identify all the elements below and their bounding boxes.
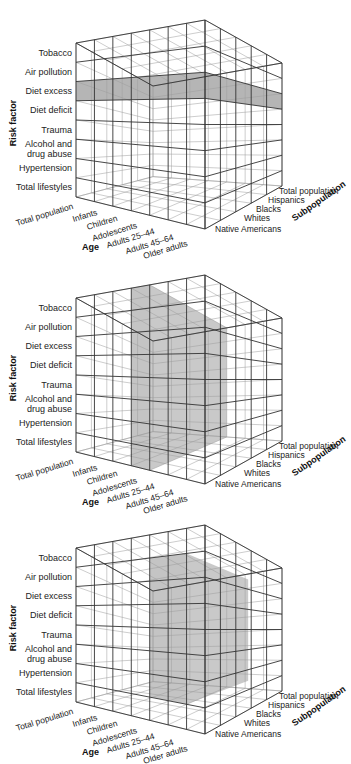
risk-label: drug abuse [4,404,72,414]
risk-label: Total lifestyles [4,687,72,697]
risk-factor-axis-title: Risk factor [8,605,18,652]
side-row [205,525,282,568]
cube-panel-1: TobaccoAir pollutionDiet excessDiet defi… [0,0,351,255]
risk-label: Tobacco [4,48,72,58]
risk-label: Air pollution [4,67,72,77]
risk-label: Air pollution [4,572,72,582]
depth-row [76,606,153,625]
back-row [153,154,282,155]
depth-line [131,33,208,76]
subpopulation-label: Native Americans [215,479,281,489]
depth-line [187,23,264,66]
cube-panel-2: TobaccoAir pollutionDiet excessDiet defi… [0,255,351,510]
risk-label: Air pollution [4,322,72,332]
subpopulation-label: Native Americans [215,729,281,739]
risk-label: drug abuse [4,654,72,664]
side-row [205,20,282,63]
top-age-line [107,37,236,60]
depth-row [76,165,153,177]
depth-line [113,36,190,79]
risk-label: Hypertension [4,418,72,428]
risk-label: Tobacco [4,303,72,313]
risk-label: Total lifestyles [4,182,72,192]
depth-row [76,101,153,120]
depth-row [76,659,153,664]
top-age-line [91,29,220,52]
depth-row [76,154,153,159]
side-row [205,46,282,78]
front-row [76,525,205,548]
front-row [76,20,205,43]
depth-line [168,27,245,70]
subpopulation-label: Whites [244,468,270,478]
back-row [153,125,282,132]
risk-label: Diet excess [4,341,72,351]
back-row [153,165,282,170]
risk-label: Diet excess [4,86,72,96]
cube-panel-3: TobaccoAir pollutionDiet excessDiet defi… [0,505,351,760]
risk-label: Hypertension [4,163,72,173]
front-row [76,120,205,125]
subpopulation-label: Whites [244,213,270,223]
risk-label: Hypertension [4,668,72,678]
risk-label: drug abuse [4,149,72,159]
subpopulation-label: Whites [244,718,270,728]
depth-row [76,670,153,682]
front-row [76,178,205,203]
top-age-line [91,534,220,557]
risk-label: Total lifestyles [4,437,72,447]
depth-row [76,139,153,142]
risk-factor-axis-title: Risk factor [8,100,18,147]
age-axis-title: Age [82,242,99,252]
depth-row [76,644,153,647]
depth-row [76,587,153,614]
back-row [153,109,282,120]
front-row [76,159,205,177]
risk-label: Tobacco [4,553,72,563]
subpopulation-label: Native Americans [215,224,281,234]
front-row [76,139,205,150]
risk-factor-axis-title: Risk factor [8,355,18,402]
side-row [205,155,282,177]
side-row [205,275,282,318]
age-axis-title: Age [82,747,99,757]
risk-label: Diet excess [4,591,72,601]
